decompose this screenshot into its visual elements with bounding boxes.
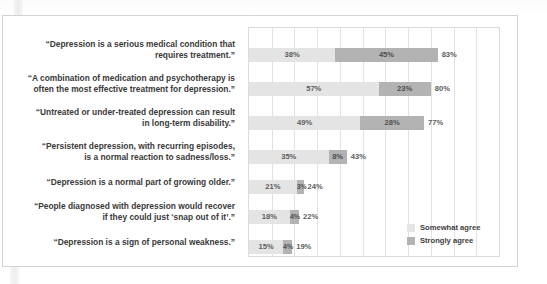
page-top-edge <box>0 0 547 15</box>
bar-segment-somewhat-agree: 15% <box>249 240 283 254</box>
category-label: “Persistent depression, with recurring e… <box>3 141 235 162</box>
bar-segment-strongly-agree: 3% <box>297 180 304 194</box>
category-label-line: “Persistent depression, with recurring e… <box>3 141 235 152</box>
category-label: “People diagnosed with depression would … <box>3 201 235 222</box>
bar-row: 57%23%80% <box>249 82 499 96</box>
legend-swatch-icon <box>407 237 415 245</box>
bar-segment-strongly-agree: 28% <box>360 116 424 130</box>
category-label-line: “Depression is a serious medical conditi… <box>3 39 235 50</box>
category-label: “Depression is a sign of personal weakne… <box>3 237 235 248</box>
bar-segment-strongly-agree: 4% <box>283 240 292 254</box>
scan-artifact-bottom <box>10 266 20 284</box>
bar-total-label: 77% <box>424 116 443 130</box>
bar-row: 49%28%77% <box>249 116 499 130</box>
bar-total-label: 80% <box>431 82 450 96</box>
bar-segment-strongly-agree: 23% <box>379 82 431 96</box>
bar-row: 35%8%43% <box>249 150 499 164</box>
bar-row: 21%3%24% <box>249 180 499 194</box>
category-label-column: “Depression is a serious medical conditi… <box>3 24 243 260</box>
bar-total-label: 24% <box>304 180 323 194</box>
bar-segment-somewhat-agree: 18% <box>249 210 290 224</box>
category-label-line: “People diagnosed with depression would … <box>3 201 235 212</box>
category-label-line: “A combination of medication and psychot… <box>3 73 235 84</box>
legend-label: Strongly agree <box>420 236 473 245</box>
category-label-line: requires treatment.” <box>3 50 235 61</box>
figure-frame: “Depression is a serious medical conditi… <box>2 15 518 267</box>
legend-label: Somewhat agree <box>420 223 480 232</box>
category-label-line: “Untreated or under-treated depression c… <box>3 107 235 118</box>
bar-segment-strongly-agree: 8% <box>329 150 347 164</box>
legend-swatch-icon <box>407 224 415 232</box>
bar-segment-somewhat-agree: 21% <box>249 180 297 194</box>
category-label-line: often the most effective treatment for d… <box>3 84 235 95</box>
category-label-line: “Depression is a normal part of growing … <box>3 177 235 188</box>
category-label-line: “Depression is a sign of personal weakne… <box>3 237 235 248</box>
category-label-line: is a normal reaction to sadness/loss.” <box>3 152 235 163</box>
category-label-line: in long-term disability.” <box>3 118 235 129</box>
legend-item-somewhat[interactable]: Somewhat agree <box>407 222 480 233</box>
bar-segment-strongly-agree: 45% <box>335 48 437 62</box>
bar-segment-somewhat-agree: 35% <box>249 150 329 164</box>
chart-legend: Somewhat agreeStrongly agree <box>407 222 480 248</box>
bar-total-label: 19% <box>292 240 311 254</box>
bar-row: 38%45%83% <box>249 48 499 62</box>
category-label-line: if they could just ‘snap out of it’.” <box>3 212 235 223</box>
category-label: “A combination of medication and psychot… <box>3 73 235 94</box>
bar-segment-somewhat-agree: 38% <box>249 48 335 62</box>
stacked-bar-chart: “Depression is a serious medical conditi… <box>3 16 517 266</box>
category-label: “Untreated or under-treated depression c… <box>3 107 235 128</box>
category-label: “Depression is a normal part of growing … <box>3 177 235 188</box>
bar-total-label: 83% <box>438 48 457 62</box>
category-label: “Depression is a serious medical conditi… <box>3 39 235 60</box>
bar-segment-somewhat-agree: 57% <box>249 82 379 96</box>
legend-item-strongly[interactable]: Strongly agree <box>407 235 480 246</box>
bar-segment-strongly-agree: 4% <box>290 210 299 224</box>
bar-total-label: 43% <box>347 150 366 164</box>
bar-segment-somewhat-agree: 49% <box>249 116 360 130</box>
bar-total-label: 22% <box>299 210 318 224</box>
